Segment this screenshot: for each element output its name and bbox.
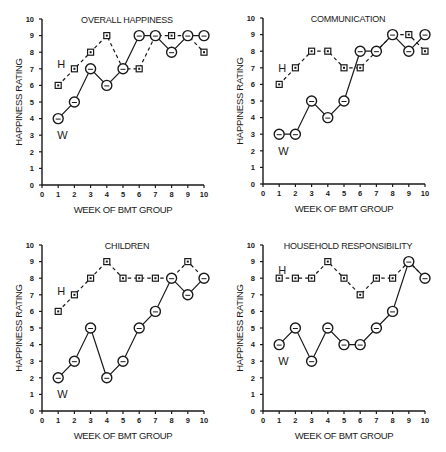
x-tick-label: 0 [40, 416, 44, 425]
square-marker-dot [171, 35, 173, 37]
series-w [274, 257, 430, 367]
square-marker-dot [90, 51, 92, 53]
series-label: H [57, 58, 65, 70]
y-tick-label: 6 [251, 80, 255, 89]
y-axis-label: HAPPINESS RATING [234, 57, 245, 144]
y-tick-label: 7 [251, 291, 255, 300]
y-tick-label: 3 [251, 357, 255, 366]
y-tick-label: 4 [251, 340, 256, 349]
y-tick-label: 6 [30, 307, 34, 316]
y-axis-label: HAPPINESS RATING [13, 58, 24, 145]
y-tick-label: 9 [30, 257, 34, 266]
series-line [279, 35, 425, 135]
x-tick-label: 5 [342, 416, 346, 425]
y-tick-label: 1 [251, 163, 255, 172]
square-marker-dot [327, 50, 329, 52]
panel-title: COMMUNICATION [311, 14, 386, 24]
x-tick-label: 5 [342, 189, 346, 198]
y-axis-label: HAPPINESS RATING [13, 284, 24, 371]
y-tick-label: 9 [251, 257, 255, 266]
x-tick-label: 0 [261, 416, 265, 425]
y-tick-label: 7 [30, 65, 34, 74]
x-tick-label: 8 [391, 416, 395, 425]
series-h [55, 33, 207, 89]
y-tick-label: 8 [30, 274, 34, 283]
square-marker-dot [359, 294, 361, 296]
x-axis-label: WEEK OF BMT GROUP [74, 204, 173, 215]
y-tick-label: 1 [30, 164, 34, 173]
x-tick-label: 2 [72, 416, 76, 425]
y-tick-label: 0 [30, 181, 34, 190]
y-tick-label: 2 [251, 147, 255, 156]
square-marker-dot [138, 68, 140, 70]
y-tick-label: 10 [247, 241, 255, 250]
x-axis-label: WEEK OF BMT GROUP [295, 430, 394, 441]
x-tick-label: 10 [200, 416, 208, 425]
x-tick-label: 6 [137, 190, 141, 199]
panel-children: 012345678910012345678910CHILDRENWEEK OF … [13, 241, 209, 441]
y-tick-label: 8 [251, 274, 255, 283]
x-tick-label: 7 [153, 190, 157, 199]
y-tick-label: 10 [26, 15, 34, 24]
y-tick-label: 10 [247, 14, 255, 23]
y-tick-label: 3 [30, 357, 34, 366]
x-tick-label: 4 [105, 416, 110, 425]
y-tick-label: 5 [251, 324, 255, 333]
y-tick-label: 0 [251, 407, 255, 416]
x-tick-label: 8 [170, 416, 174, 425]
x-tick-label: 3 [310, 189, 314, 198]
x-tick-label: 5 [121, 416, 125, 425]
y-tick-label: 3 [251, 130, 255, 139]
series-w [53, 273, 209, 383]
y-tick-label: 6 [30, 81, 34, 90]
x-tick-label: 10 [200, 190, 208, 199]
x-tick-label: 1 [56, 416, 60, 425]
square-marker-dot [122, 277, 124, 279]
y-tick-label: 6 [251, 307, 255, 316]
y-tick-label: 8 [30, 48, 34, 57]
y-tick-label: 5 [251, 97, 255, 106]
y-tick-label: 2 [251, 374, 255, 383]
square-marker-dot [203, 51, 205, 53]
x-axis-label: WEEK OF BMT GROUP [295, 203, 394, 214]
series-w [274, 30, 430, 140]
x-tick-label: 1 [277, 189, 281, 198]
x-axis-label: WEEK OF BMT GROUP [74, 430, 173, 441]
series-label: H [278, 264, 286, 276]
y-tick-label: 0 [251, 180, 255, 189]
y-tick-label: 7 [251, 64, 255, 73]
x-tick-label: 10 [421, 189, 429, 198]
y-tick-label: 1 [251, 390, 255, 399]
x-tick-label: 7 [374, 416, 378, 425]
y-tick-label: 4 [30, 340, 35, 349]
series-line [58, 36, 204, 86]
x-tick-label: 4 [326, 189, 331, 198]
panel-title: CHILDREN [105, 241, 149, 251]
x-tick-label: 0 [261, 189, 265, 198]
series-label: W [57, 388, 68, 400]
x-tick-label: 5 [121, 190, 125, 199]
x-tick-label: 7 [374, 189, 378, 198]
square-marker-dot [57, 310, 59, 312]
square-marker-dot [106, 261, 108, 263]
square-marker-dot [278, 277, 280, 279]
y-tick-label: 2 [30, 374, 34, 383]
x-tick-label: 10 [421, 416, 429, 425]
x-tick-label: 3 [89, 190, 93, 199]
x-tick-label: 8 [391, 189, 395, 198]
y-tick-label: 9 [251, 30, 255, 39]
x-tick-label: 9 [407, 416, 411, 425]
y-tick-label: 9 [30, 31, 34, 40]
x-tick-label: 8 [170, 190, 174, 199]
square-marker-dot [359, 67, 361, 69]
square-marker-dot [294, 277, 296, 279]
square-marker-dot [375, 277, 377, 279]
x-tick-label: 0 [40, 190, 44, 199]
series-line [58, 278, 204, 378]
series-label: W [278, 145, 289, 157]
x-tick-label: 3 [89, 416, 93, 425]
x-tick-label: 1 [56, 190, 60, 199]
square-marker-dot [392, 277, 394, 279]
x-tick-label: 7 [153, 416, 157, 425]
chart-figure: 012345678910012345678910OVERALL HAPPINES… [0, 0, 446, 452]
